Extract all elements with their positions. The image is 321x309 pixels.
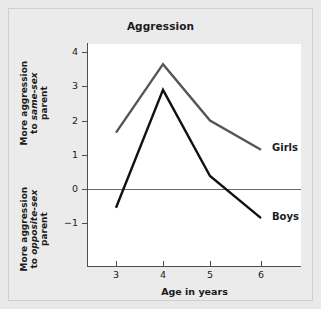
x-tick-mark — [116, 261, 117, 267]
y-tick-mark — [82, 86, 88, 87]
y-tick-mark — [82, 155, 88, 156]
y-tick-label: 2 — [58, 116, 78, 126]
y-tick-mark — [82, 189, 88, 190]
y-tick-label: 4 — [58, 47, 78, 57]
x-tick-label: 6 — [251, 270, 271, 280]
x-axis-line — [87, 266, 301, 267]
x-tick-mark — [163, 261, 164, 267]
zero-reference-line — [88, 189, 301, 190]
y-tick-mark — [82, 52, 88, 53]
y-tick-mark — [82, 121, 88, 122]
series-label-boys: Boys — [272, 211, 299, 222]
y-tick-label: 1 — [58, 150, 78, 160]
y-axis-label-lower: More aggressionto opposite-sexparent — [19, 175, 49, 283]
y-axis-label-upper: More aggressionto same-sexparent — [19, 51, 49, 155]
y-tick-label: 3 — [58, 81, 78, 91]
chart-title: Aggression — [0, 20, 321, 32]
x-tick-label: 5 — [200, 270, 220, 280]
series-label-girls: Girls — [272, 142, 298, 153]
x-tick-mark — [261, 261, 262, 267]
y-tick-label: −1 — [58, 218, 78, 228]
y-tick-label: 0 — [58, 184, 78, 194]
figure-container: Aggression 43210−1 3456 More aggressiont… — [0, 0, 321, 309]
x-tick-label: 3 — [106, 270, 126, 280]
y-tick-mark — [82, 223, 88, 224]
x-tick-label: 4 — [153, 270, 173, 280]
plot-area — [88, 44, 301, 266]
x-axis-label: Age in years — [88, 286, 301, 297]
x-tick-mark — [210, 261, 211, 267]
